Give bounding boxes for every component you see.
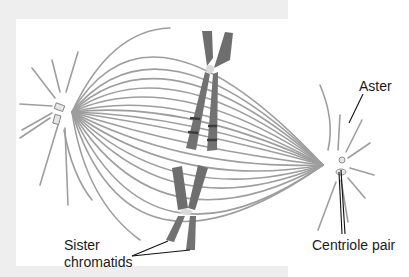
lower-chromosome [166, 165, 208, 250]
right-aster [318, 85, 374, 230]
lower-centromere [180, 209, 192, 215]
sister-chromatid-leader-line-2 [132, 250, 190, 256]
spindle-diagram [0, 0, 409, 277]
left-centriole-1 [54, 103, 65, 112]
left-centriole-2 [53, 114, 61, 124]
left-aster [20, 52, 92, 205]
sister-chromatids-label-line2: chromatids [64, 254, 132, 271]
aster-leader-line [349, 94, 363, 123]
centriole-pair-label: Centriole pair [312, 237, 395, 254]
upper-centromere [206, 65, 214, 73]
leader-lines [132, 94, 363, 256]
sister-chromatids-label: Sister chromatids [64, 237, 132, 271]
left-centriole-pair [53, 103, 65, 125]
aster-label: Aster [359, 78, 392, 95]
sister-chromatids-label-line1: Sister [64, 237, 132, 254]
right-centriole-1 [339, 157, 345, 163]
